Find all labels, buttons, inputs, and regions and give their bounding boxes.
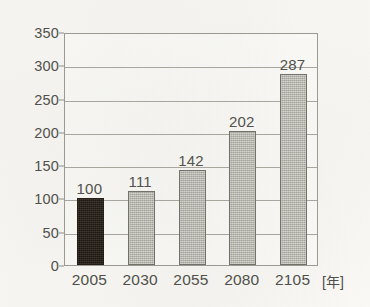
x-axis-tick-label-2030: 2030 (123, 271, 158, 289)
y-axis-tick-mark (59, 199, 64, 200)
x-axis-tick-label-2080: 2080 (224, 271, 259, 289)
y-axis-tick-label: 100 (19, 191, 59, 207)
bar-2105 (280, 74, 307, 265)
bar-value-label-2080: 202 (229, 113, 255, 130)
y-axis-tick-label: 350 (19, 25, 59, 41)
bar-chart: 100111142202287 [年] 05010015020025030035… (0, 0, 370, 307)
bar-value-label-2030: 111 (128, 173, 151, 190)
y-axis-tick-mark (59, 166, 64, 167)
x-axis-tick-label-2005: 2005 (72, 271, 107, 289)
bar-2055 (179, 170, 206, 265)
y-axis-tick-mark (59, 232, 64, 233)
y-axis-tick-mark (59, 99, 64, 100)
y-axis-tick-label: 150 (19, 158, 59, 174)
x-axis-tick-label-2105: 2105 (275, 271, 310, 289)
bar-value-label-2105: 287 (280, 56, 306, 73)
y-axis-tick-label: 200 (19, 125, 59, 141)
bar-value-label-2055: 142 (178, 152, 204, 169)
y-axis-tick-label: 300 (19, 58, 59, 74)
bar-2005 (77, 198, 104, 265)
y-axis-tick-label: 250 (19, 92, 59, 108)
y-axis-tick-label: 50 (19, 225, 59, 241)
y-axis-tick-mark (59, 266, 64, 267)
bar-value-label-2005: 100 (77, 180, 103, 197)
y-axis-tick-mark (59, 33, 64, 34)
x-axis-unit-label: [年] (322, 271, 344, 291)
x-axis-tick-label-2055: 2055 (173, 271, 208, 289)
y-axis-tick-mark (59, 66, 64, 67)
y-axis-tick-label: 0 (19, 258, 59, 274)
bar-2080 (229, 131, 256, 265)
bar-2030 (128, 191, 155, 265)
y-axis-tick-mark (59, 132, 64, 133)
